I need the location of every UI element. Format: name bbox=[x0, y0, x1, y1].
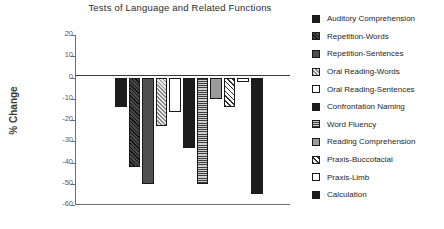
legend-item[interactable]: Oral Reading-Words bbox=[312, 63, 442, 81]
legend-item[interactable]: Calculation bbox=[312, 186, 442, 204]
bar bbox=[142, 78, 154, 184]
plot-area: 20100-10-20-30-40-50-60 bbox=[75, 35, 290, 205]
y-tick-mark bbox=[71, 141, 75, 142]
legend-swatch-icon bbox=[312, 15, 320, 23]
y-tick-label: -40 bbox=[62, 157, 73, 166]
legend-swatch-icon bbox=[312, 32, 320, 40]
legend-swatch-icon bbox=[312, 85, 320, 93]
y-tick-mark bbox=[71, 35, 75, 36]
bar bbox=[183, 78, 195, 148]
legend-item-label: Confrontation Naming bbox=[327, 102, 405, 111]
bar bbox=[210, 78, 222, 99]
legend-item-label: Praxis-Limb bbox=[327, 173, 369, 182]
legend-item-label: Oral Reading-Sentences bbox=[327, 85, 415, 94]
y-tick-mark bbox=[71, 205, 75, 206]
legend-swatch-icon bbox=[312, 103, 320, 111]
chart-figure: Tests of Language and Related Functions … bbox=[0, 0, 444, 229]
bar bbox=[197, 78, 209, 184]
bar bbox=[237, 78, 249, 82]
legend-item-label: Repetition-Words bbox=[327, 32, 389, 41]
chart-title: Tests of Language and Related Functions bbox=[60, 2, 300, 13]
legend-item[interactable]: Word Fluency bbox=[312, 116, 442, 134]
legend-item[interactable]: Confrontation Naming bbox=[312, 98, 442, 116]
y-tick-mark bbox=[71, 184, 75, 185]
y-tick-label: -50 bbox=[62, 178, 73, 187]
bar bbox=[115, 78, 127, 108]
bar bbox=[129, 78, 141, 167]
legend-item-label: Calculation bbox=[327, 190, 367, 199]
y-tick-label: 10 bbox=[65, 50, 73, 59]
y-tick-mark bbox=[71, 56, 75, 57]
legend-item-label: Praxis-Buccofacial bbox=[327, 155, 393, 164]
y-tick-label: -30 bbox=[62, 135, 73, 144]
legend-item[interactable]: Oral Reading-Sentences bbox=[312, 80, 442, 98]
legend-swatch-icon bbox=[312, 173, 320, 181]
legend-swatch-icon bbox=[312, 191, 320, 199]
legend-swatch-icon bbox=[312, 120, 320, 128]
bar bbox=[169, 78, 181, 112]
legend-swatch-icon bbox=[312, 68, 320, 76]
y-tick-mark bbox=[71, 163, 75, 164]
y-tick-label: -10 bbox=[62, 93, 73, 102]
legend-item[interactable]: Praxis-Limb bbox=[312, 168, 442, 186]
legend-swatch-icon bbox=[312, 138, 320, 146]
y-tick-label: -20 bbox=[62, 114, 73, 123]
bar bbox=[224, 78, 236, 108]
y-tick-label: -60 bbox=[62, 199, 73, 208]
y-tick-mark bbox=[71, 78, 75, 79]
legend-item[interactable]: Repetition-Words bbox=[312, 28, 442, 46]
y-tick-label: 20 bbox=[65, 29, 73, 38]
legend-item[interactable]: Auditory Comprehension bbox=[312, 10, 442, 28]
legend-item-label: Word Fluency bbox=[327, 120, 376, 129]
legend-item-label: Repetition-Sentences bbox=[327, 49, 404, 58]
legend-item-label: Oral Reading-Words bbox=[327, 67, 400, 76]
bar bbox=[156, 78, 168, 127]
bar bbox=[251, 78, 263, 195]
legend-item-label: Auditory Comprehension bbox=[327, 14, 415, 23]
y-axis-label-container: % Change bbox=[2, 75, 24, 155]
legend-swatch-icon bbox=[312, 156, 320, 164]
y-tick-mark bbox=[71, 99, 75, 100]
y-axis-label: % Change bbox=[8, 71, 19, 151]
legend-item[interactable]: Repetition-Sentences bbox=[312, 45, 442, 63]
legend-swatch-icon bbox=[312, 50, 320, 58]
bar-series bbox=[76, 35, 290, 205]
legend: Auditory ComprehensionRepetition-WordsRe… bbox=[312, 10, 442, 204]
y-tick: -60 bbox=[45, 205, 81, 206]
y-tick-mark bbox=[71, 120, 75, 121]
legend-item[interactable]: Reading Comprehension bbox=[312, 133, 442, 151]
legend-item[interactable]: Praxis-Buccofacial bbox=[312, 151, 442, 169]
y-tick-label: 0 bbox=[69, 72, 73, 81]
legend-item-label: Reading Comprehension bbox=[327, 137, 416, 146]
